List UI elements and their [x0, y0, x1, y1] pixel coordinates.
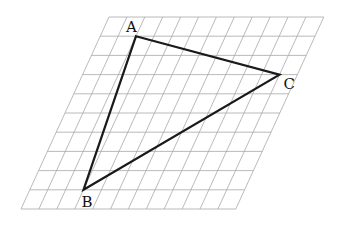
- vertex-label-b: B: [82, 193, 93, 211]
- vertex-label-a: A: [125, 18, 137, 36]
- triangle-grid-figure: A C B: [0, 0, 344, 226]
- vertex-label-c: C: [284, 75, 295, 93]
